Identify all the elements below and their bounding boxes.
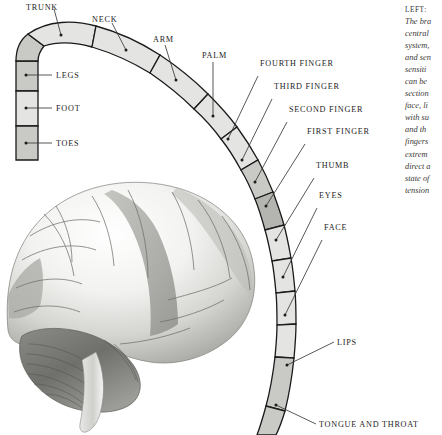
band-segment-face[interactable] [275, 324, 296, 358]
caption-line: system, [405, 40, 442, 52]
label-eyes: EYES [319, 191, 342, 200]
caption-line: and sen [405, 52, 442, 64]
band-segment-tongue-throat[interactable] [257, 406, 285, 435]
band-segment-lips[interactable] [266, 357, 294, 411]
label-arm: ARM [153, 35, 174, 44]
diagram-svg: TRUNK NECK ARM PALM FOURTH FINGER THIRD … [0, 0, 442, 435]
caption-line: and th [405, 124, 442, 136]
label-neck: NECK [92, 15, 117, 24]
band-segment-second-finger[interactable] [255, 192, 284, 230]
label-foot: FOOT [56, 104, 80, 113]
leader-second [255, 122, 287, 182]
brain-illustration [7, 182, 255, 432]
caption-block: LEFT: The bra central system, and sen se… [405, 6, 442, 197]
caption-line: extrem [405, 149, 442, 161]
label-face: FACE [324, 223, 347, 232]
label-first-finger: FIRST FINGER [307, 127, 370, 136]
band-segment-arm[interactable] [150, 55, 208, 109]
band-segment-eyes[interactable] [276, 291, 296, 325]
caption-line: with su [405, 112, 442, 124]
caption-line: face, li [405, 100, 442, 112]
homunculus-figure: TRUNK NECK ARM PALM FOURTH FINGER THIRD … [0, 0, 442, 435]
leader-first [266, 144, 305, 206]
caption-lead: LEFT: [405, 6, 442, 14]
label-legs: LEGS [56, 71, 79, 80]
leader-third [242, 99, 272, 160]
caption-line: state of [405, 173, 442, 185]
caption-body: The bra central system, and sen sensiti … [405, 16, 442, 197]
band-segment-first-finger[interactable] [265, 225, 291, 261]
label-fourth-finger: FOURTH FINGER [260, 59, 334, 68]
band-vertical-column [16, 34, 44, 160]
caption-line: can be [405, 76, 442, 88]
leader-fourth [228, 76, 258, 139]
caption-line: tension [405, 185, 442, 197]
caption-line: central [405, 28, 442, 40]
caption-line: sensiti [405, 64, 442, 76]
label-thumb: THUMB [316, 161, 349, 170]
caption-line: section [405, 88, 442, 100]
label-palm: PALM [202, 51, 227, 60]
label-third-finger: THIRD FINGER [274, 82, 340, 91]
caption-line: The bra [405, 16, 442, 28]
label-toes: TOES [56, 139, 79, 148]
label-tongue-throat: TONGUE AND THROAT [319, 420, 419, 429]
leader-thumb [276, 178, 314, 240]
caption-line: direct a [405, 161, 442, 173]
label-trunk: TRUNK [26, 3, 58, 12]
label-lips: LIPS [337, 338, 357, 347]
label-second-finger: SECOND FINGER [289, 105, 363, 114]
caption-line: fingers [405, 136, 442, 148]
